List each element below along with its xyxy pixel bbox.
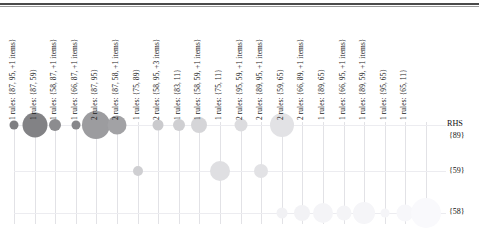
row-label-89: {89} [449, 131, 465, 140]
lhs-column-label-text: 1 rules: {83, 11} [174, 69, 182, 120]
lhs-column-label-2: 1 rules: {58, 87, +1 items} [58, 0, 68, 120]
lhs-column-label-text: 2 rules: {89, 95, +1 items} [256, 39, 264, 121]
rule-bubble [254, 164, 268, 178]
lhs-column-label-17: 1 rules: {89, 59, +1 items} [367, 0, 377, 120]
lhs-column-label-4: 2 rules: {87, 95} [99, 0, 109, 120]
lhs-column-label-11: 2 rules: {95, 59, +1 items} [244, 0, 254, 120]
lhs-column-label-10: 1 rules: {75, 11} [223, 0, 233, 120]
lhs-column-label-text: 2 rules: {59, 65} [277, 69, 285, 120]
rule-bubble [210, 161, 230, 181]
lhs-column-label-12: 2 rules: {89, 95, +1 items} [264, 0, 274, 120]
rule-bubble [353, 202, 375, 224]
lhs-column-label-text: 2 rules: {87, 95} [91, 69, 99, 120]
lhs-column-label-text: 1 rules: {75, 89} [133, 69, 141, 120]
lhs-column-label-text: 1 rules: {65, 11} [400, 69, 408, 120]
lhs-column-label-text: 1 rules: {75, 11} [215, 69, 223, 120]
lhs-column-label-19: 1 rules: {65, 11} [408, 0, 418, 120]
lhs-column-label-5: 2 rules: {87, 58, +1 items} [120, 0, 130, 120]
column-gridline [35, 122, 36, 224]
lhs-column-label-text: 1 rules: {58, 59, +1 items} [194, 39, 202, 121]
column-gridline [117, 122, 118, 224]
lhs-column-label-text: 1 rules: {58, 87, +1 items} [50, 39, 58, 121]
top-border-rule [0, 3, 479, 5]
row-label-58: {58} [449, 207, 465, 216]
rule-bubble [276, 207, 287, 218]
lhs-column-label-16: 1 rules: {66, 95, +1 items} [347, 0, 357, 120]
lhs-column-label-text: 2 rules: {58, 95, +3 items} [153, 39, 161, 121]
rule-bubble [294, 205, 310, 221]
row-label-59: {59} [449, 166, 465, 175]
lhs-column-label-8: 1 rules: {83, 11} [182, 0, 192, 120]
rule-bubble [133, 166, 143, 176]
rule-bubble [49, 119, 61, 131]
lhs-column-label-0: 1 rules: {87, 95, +1 items} [17, 0, 27, 120]
lhs-column-label-1: 1 rules: {87, 59} [38, 0, 48, 120]
column-gridline [14, 122, 15, 224]
rule-bubble [313, 203, 333, 223]
lhs-column-label-13: 2 rules: {59, 65} [285, 0, 295, 120]
top-border-rule-secondary [0, 6, 479, 7]
lhs-column-label-14: 2 rules: {66, 89, +1 items} [305, 0, 315, 120]
rule-bubble [10, 120, 19, 129]
rule-bubble [380, 208, 389, 217]
column-gridline [158, 122, 159, 224]
lhs-column-label-7: 2 rules: {58, 95, +3 items} [161, 0, 171, 120]
column-gridline [76, 122, 77, 224]
lhs-column-label-3: 1 rules: {66, 87, +1 items} [79, 0, 89, 120]
lhs-column-label-text: 1 rules: {95, 65} [380, 69, 388, 120]
rule-bubble [411, 198, 441, 228]
column-gridline [199, 122, 200, 224]
rule-bubble [336, 205, 351, 220]
column-gridline [55, 122, 56, 224]
lhs-column-label-text: 1 rules: {89, 65} [318, 69, 326, 120]
lhs-column-label-text: 1 rules: {66, 87, +1 items} [71, 39, 79, 121]
lhs-column-label-6: 1 rules: {75, 89} [141, 0, 151, 120]
rule-bubble [153, 119, 164, 130]
lhs-column-label-text: 1 rules: {66, 95, +1 items} [339, 39, 347, 121]
lhs-column-label-text: 1 rules: {87, 95, +1 items} [9, 39, 17, 121]
grouped-matrix-rules-plot: 1 rules: {87, 95, +1 items}1 rules: {87,… [0, 0, 479, 235]
lhs-column-label-18: 1 rules: {95, 65} [388, 0, 398, 120]
lhs-column-label-15: 1 rules: {89, 65} [326, 0, 336, 120]
lhs-column-label-text: 2 rules: {66, 89, +1 items} [297, 39, 305, 121]
lhs-column-label-text: 2 rules: {95, 59, +1 items} [236, 39, 244, 121]
lhs-column-label-text: 1 rules: {87, 59} [30, 69, 38, 120]
row-gridline [14, 171, 446, 172]
rhs-axis-label: RHS [447, 119, 463, 128]
column-gridline [241, 122, 242, 224]
lhs-column-label-9: 1 rules: {58, 59, +1 items} [202, 0, 212, 120]
rule-bubble [173, 119, 185, 131]
column-gridline [179, 122, 180, 224]
lhs-column-label-text: 1 rules: {89, 59, +1 items} [359, 39, 367, 121]
lhs-column-label-text: 2 rules: {87, 58, +1 items} [112, 39, 120, 121]
rule-bubble [71, 120, 80, 129]
